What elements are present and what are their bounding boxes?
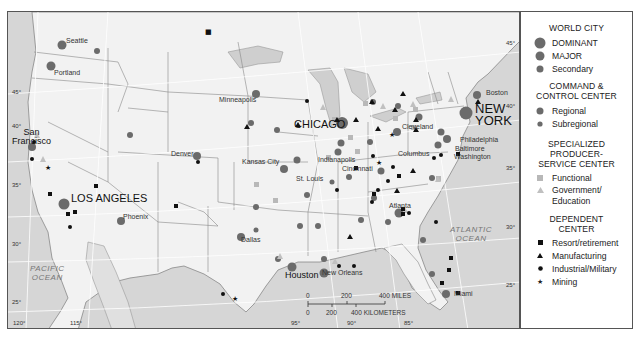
- legend-education-line: Education: [521, 195, 632, 206]
- lat-25-west: 25°: [12, 299, 21, 305]
- legend-dependent-title-2: CENTER: [521, 224, 632, 234]
- legend-secondary: Secondary: [521, 62, 632, 75]
- scale-km-200: 200: [326, 309, 337, 316]
- label-minneapolis: Minneapolis: [219, 96, 256, 104]
- lon-95: 95°: [291, 320, 300, 326]
- scale-km-0: 0: [306, 309, 310, 316]
- svg-text:★: ★: [376, 159, 382, 167]
- svg-text:★: ★: [45, 164, 51, 172]
- svg-text:■: ■: [205, 28, 212, 36]
- scale-miles-400: 400 MILES: [379, 292, 411, 299]
- lat-25-east: 25°: [506, 282, 515, 288]
- legend-manufacturing: Manufacturing: [521, 249, 632, 262]
- label-chicago: CHICAGO: [294, 119, 345, 130]
- lon-115: 115°: [70, 320, 82, 326]
- label-san-francisco: San Francisco: [12, 128, 51, 146]
- legend-functional: Functional: [521, 171, 632, 184]
- legend-command-title-1: COMMAND &: [521, 81, 632, 91]
- label-atlanta: Atlanta: [389, 202, 411, 210]
- label-new-orleans: New Orleans: [322, 269, 362, 277]
- legend-specialized-title-3: SERVICE CENTER: [521, 159, 632, 169]
- lat-30-east: 30°: [506, 224, 515, 230]
- legend-command-title-2: CONTROL CENTER: [521, 91, 632, 101]
- label-los-angeles: LOS ANGELES: [71, 193, 147, 204]
- label-seattle: Seattle: [66, 37, 88, 45]
- label-philadelphia: Philadelphia: [460, 136, 498, 144]
- legend-major: MAJOR: [521, 49, 632, 62]
- mining-star-icon: ★: [533, 278, 547, 286]
- label-boston: Boston: [486, 89, 508, 97]
- lat-35-east: 35°: [506, 165, 515, 171]
- svg-text:★: ★: [389, 131, 395, 139]
- lat-35-west: 35°: [12, 182, 21, 188]
- lat-30-west: 30°: [12, 241, 21, 247]
- label-new-york: NEW YORK: [475, 103, 512, 127]
- legend-specialized-title-1: SPECIALIZED: [521, 139, 632, 149]
- scale-miles-0: 0: [306, 292, 310, 299]
- label-cincinnati: Cincinnati: [342, 165, 373, 173]
- legend-specialized-title-2: PRODUCER-: [521, 149, 632, 159]
- legend-regional: Regional: [521, 104, 632, 117]
- secondary-circle-icon: [533, 65, 547, 73]
- map-frame: ★★ ★★ ■ PACIFIC OCEAN ATLANTIC OCEAN 45°…: [7, 11, 520, 329]
- label-dallas: Dallas: [241, 236, 260, 244]
- subregional-circle-icon: [533, 121, 547, 127]
- label-indianapolis: Indianapolis: [318, 156, 355, 164]
- label-portland: Portland: [54, 69, 80, 77]
- lon-120: 120°: [13, 320, 25, 326]
- major-circle-icon: [533, 51, 547, 61]
- functional-square-icon: [533, 175, 547, 181]
- legend-dependent-title-1: DEPENDENT: [521, 214, 632, 224]
- us-map: ★★ ★★ ■: [8, 12, 520, 329]
- lon-85: 85°: [404, 320, 413, 326]
- scale-km-400: 400 KILOMETERS: [351, 309, 406, 316]
- pacific-ocean-label: PACIFIC OCEAN: [30, 264, 64, 282]
- government-triangle-icon: [533, 187, 547, 193]
- map-legend: WORLD CITY DOMINANT MAJOR Secondary COMM…: [520, 11, 633, 329]
- lat-45-west: 45°: [12, 89, 21, 95]
- label-cleveland: Cleveland: [402, 123, 433, 131]
- label-kansas-city: Kansas City: [242, 158, 279, 166]
- label-washington: Washington: [454, 153, 491, 161]
- label-houston: Houston: [285, 270, 319, 281]
- label-denver: Denver: [171, 150, 194, 158]
- manufacturing-triangle-icon: [533, 253, 547, 258]
- legend-world-city-title: WORLD CITY: [521, 23, 632, 33]
- lat-45-east: 45°: [506, 40, 515, 46]
- regional-circle-icon: [533, 107, 547, 115]
- label-miami: Miami: [454, 290, 473, 298]
- label-st-louis: St. Louis: [296, 175, 323, 183]
- dominant-circle-icon: [533, 37, 547, 49]
- svg-text:★: ★: [232, 295, 238, 303]
- legend-mining: ★ Mining: [521, 275, 632, 288]
- legend-government-education: Government/: [521, 184, 632, 195]
- label-baltimore: Baltimore: [455, 145, 485, 153]
- scale-miles-200: 200: [341, 292, 352, 299]
- industrial-circle-icon: [533, 266, 547, 271]
- legend-dominant: DOMINANT: [521, 36, 632, 49]
- legend-subregional: Subregional: [521, 117, 632, 130]
- legend-industrial-military: Industrial/Military: [521, 262, 632, 275]
- label-phoenix: Phoenix: [123, 213, 148, 221]
- legend-resort: Resort/retirement: [521, 236, 632, 249]
- resort-square-icon: [533, 240, 547, 245]
- label-columbus: Columbus: [398, 150, 430, 158]
- atlantic-ocean-label: ATLANTIC OCEAN: [450, 225, 492, 243]
- lon-90: 90°: [347, 320, 356, 326]
